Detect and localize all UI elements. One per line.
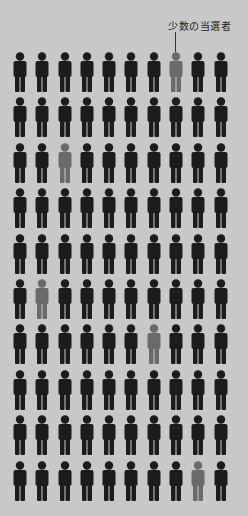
person-icon — [190, 143, 212, 188]
person-icon — [57, 188, 79, 233]
person-icon — [146, 415, 168, 460]
person-icon — [168, 324, 190, 369]
person-icon — [190, 324, 212, 369]
person-icon — [79, 188, 101, 233]
person-icon — [12, 461, 34, 506]
person-icon — [213, 324, 235, 369]
person-icon — [190, 370, 212, 415]
person-icon — [190, 52, 212, 97]
person-icon — [123, 97, 145, 142]
person-icon — [12, 415, 34, 460]
person-icon — [190, 279, 212, 324]
person-icon — [12, 234, 34, 279]
person-icon-minority — [34, 279, 56, 324]
person-icon — [146, 370, 168, 415]
person-icon — [213, 279, 235, 324]
person-icon — [12, 370, 34, 415]
person-icon — [34, 234, 56, 279]
person-icon — [101, 97, 123, 142]
person-icon — [213, 461, 235, 506]
person-icon — [79, 234, 101, 279]
person-icon — [101, 461, 123, 506]
person-icon — [57, 461, 79, 506]
person-icon — [146, 143, 168, 188]
person-icon — [213, 52, 235, 97]
person-icon — [168, 234, 190, 279]
person-icon — [213, 234, 235, 279]
person-icon-minority — [168, 52, 190, 97]
person-icon — [101, 415, 123, 460]
person-icon — [34, 370, 56, 415]
person-icon — [101, 279, 123, 324]
person-icon — [190, 234, 212, 279]
person-icon — [123, 143, 145, 188]
person-icon — [168, 370, 190, 415]
person-icon — [79, 461, 101, 506]
person-icon — [123, 234, 145, 279]
person-icon — [34, 415, 56, 460]
person-icon — [57, 52, 79, 97]
person-icon — [213, 97, 235, 142]
person-icon — [79, 52, 101, 97]
person-icon — [12, 188, 34, 233]
person-icon — [146, 97, 168, 142]
person-icon — [168, 97, 190, 142]
person-icon — [101, 52, 123, 97]
person-icon — [101, 234, 123, 279]
person-icon — [146, 279, 168, 324]
person-icon — [146, 234, 168, 279]
person-icon — [34, 324, 56, 369]
person-icon — [57, 279, 79, 324]
person-icon — [146, 461, 168, 506]
person-icon — [34, 52, 56, 97]
person-icon — [190, 188, 212, 233]
person-icon — [34, 188, 56, 233]
person-icon — [101, 188, 123, 233]
person-icon-minority — [190, 461, 212, 506]
person-icon — [79, 324, 101, 369]
person-icon — [123, 324, 145, 369]
person-icon — [213, 370, 235, 415]
person-icon — [123, 415, 145, 460]
person-icon — [12, 279, 34, 324]
person-icon — [168, 415, 190, 460]
person-icon — [12, 324, 34, 369]
person-icon — [12, 97, 34, 142]
person-icon-minority — [57, 143, 79, 188]
minority-winners-label: 少数の当選者 — [168, 18, 231, 33]
person-icon — [79, 415, 101, 460]
person-icon — [123, 188, 145, 233]
person-icon — [123, 52, 145, 97]
person-icon — [79, 370, 101, 415]
person-icon — [57, 97, 79, 142]
person-icon — [79, 97, 101, 142]
person-icon — [57, 324, 79, 369]
person-icon — [168, 143, 190, 188]
people-grid — [12, 52, 235, 506]
person-icon — [79, 143, 101, 188]
person-icon — [34, 97, 56, 142]
person-icon — [146, 188, 168, 233]
person-icon — [213, 143, 235, 188]
person-icon — [34, 143, 56, 188]
person-icon — [101, 324, 123, 369]
person-icon — [190, 415, 212, 460]
person-icon — [12, 143, 34, 188]
person-icon — [57, 234, 79, 279]
label-pointer-line — [175, 32, 176, 52]
person-icon — [12, 52, 34, 97]
person-icon — [101, 370, 123, 415]
person-icon — [213, 415, 235, 460]
person-icon — [123, 370, 145, 415]
person-icon — [57, 370, 79, 415]
person-icon — [123, 279, 145, 324]
person-icon — [123, 461, 145, 506]
person-icon — [213, 188, 235, 233]
person-icon — [79, 279, 101, 324]
person-icon-minority — [146, 324, 168, 369]
person-icon — [57, 415, 79, 460]
person-icon — [168, 188, 190, 233]
person-icon — [34, 461, 56, 506]
person-icon — [190, 97, 212, 142]
person-icon — [168, 461, 190, 506]
